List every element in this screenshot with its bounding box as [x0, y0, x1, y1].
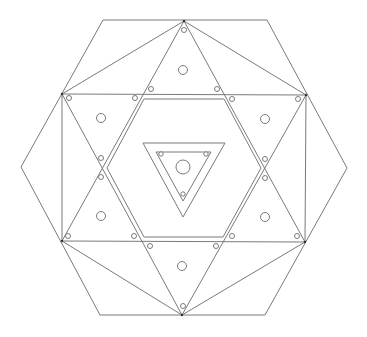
- small-circle: [133, 96, 138, 101]
- small-circle: [296, 97, 301, 102]
- center-small-circle: [204, 152, 208, 156]
- vertex-dot: [183, 20, 185, 22]
- vertex-dot: [61, 240, 63, 242]
- small-circle: [99, 175, 104, 180]
- yantra-diagram: [0, 0, 367, 337]
- small-circle: [182, 28, 187, 33]
- small-circle: [148, 244, 153, 249]
- small-circle: [214, 244, 219, 249]
- small-circle: [215, 87, 220, 92]
- center-small-circle: [159, 152, 163, 156]
- vertex-dot: [181, 314, 183, 316]
- upward-triangle: [62, 21, 305, 242]
- point-circle-top: [179, 66, 188, 75]
- small-circle: [295, 234, 300, 239]
- point-circle-upper-left: [97, 114, 106, 123]
- point-circle-lower-right: [261, 213, 270, 222]
- small-circle: [263, 176, 268, 181]
- small-circle: [230, 234, 235, 239]
- vertex-dot: [305, 94, 307, 96]
- small-circle: [181, 304, 186, 309]
- right-vertical-line: [305, 95, 306, 242]
- center-outer-triangle: [143, 143, 225, 217]
- downward-triangle: [62, 94, 306, 315]
- center-circle: [176, 160, 190, 174]
- center-small-circle: [181, 192, 185, 196]
- vertex-dot: [304, 241, 306, 243]
- small-circle: [132, 234, 137, 239]
- small-circle: [99, 156, 104, 161]
- point-circle-bottom: [178, 262, 187, 271]
- small-circle: [66, 234, 71, 239]
- small-circle: [230, 97, 235, 102]
- small-circle: [149, 87, 154, 92]
- point-circle-lower-left: [97, 212, 106, 221]
- point-circle-upper-right: [261, 115, 270, 124]
- small-circle: [67, 96, 72, 101]
- small-circle: [263, 157, 268, 162]
- vertex-dot: [61, 93, 63, 95]
